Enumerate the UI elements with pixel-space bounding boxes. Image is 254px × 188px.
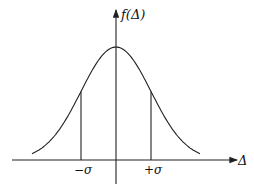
y-axis-label: f(Δ) [120,7,145,22]
minus-sigma-label: −σ [74,163,93,177]
normal-distribution-diagram: f(Δ) Δ −σ +σ [0,0,254,188]
x-axis-label: Δ [237,153,247,168]
plus-sigma-label: +σ [144,163,163,177]
